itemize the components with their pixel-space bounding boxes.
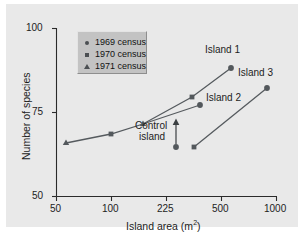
annotation-control-island-line2: island bbox=[139, 131, 165, 142]
x-tick-label-100: 100 bbox=[102, 203, 119, 214]
marker-square-island1-b bbox=[109, 132, 114, 137]
y-tick-label-100: 100 bbox=[26, 22, 43, 33]
chart-legend: 1969 census 1970 census 1971 census bbox=[77, 31, 147, 74]
marker-circle-island3-end bbox=[264, 85, 270, 91]
y-tick-label-75: 75 bbox=[32, 106, 43, 117]
legend-item-1970: 1970 census bbox=[83, 48, 146, 60]
marker-circle-control-island bbox=[173, 144, 179, 150]
x-tick-label-500: 500 bbox=[212, 203, 229, 214]
x-axis-title-tail: ) bbox=[197, 220, 201, 232]
x-axis-title-base: Island area (m bbox=[126, 220, 193, 232]
marker-square-island1-d bbox=[190, 95, 195, 100]
legend-label-1970: 1970 census bbox=[95, 49, 146, 59]
control-island-arrow-head bbox=[173, 119, 180, 126]
x-tick-label-225: 225 bbox=[157, 203, 174, 214]
marker-square-island3-start bbox=[192, 145, 197, 150]
triangle-marker-icon bbox=[83, 62, 92, 71]
annotation-island-2: Island 2 bbox=[206, 92, 241, 103]
legend-label-1969: 1969 census bbox=[95, 37, 146, 47]
x-axis-title: Island area (m2) bbox=[126, 219, 201, 232]
marker-circle-island1-end bbox=[228, 65, 234, 71]
annotation-control-island-line1: Control bbox=[135, 120, 167, 131]
legend-label-1971: 1971 census bbox=[95, 61, 146, 71]
annotation-island-3: Island 3 bbox=[238, 67, 273, 78]
marker-circle-island2-end bbox=[197, 102, 203, 108]
annotation-island-1: Island 1 bbox=[205, 44, 240, 55]
legend-item-1969: 1969 census bbox=[83, 36, 146, 48]
legend-item-1971: 1971 census bbox=[83, 60, 146, 72]
square-marker-icon bbox=[83, 50, 92, 59]
circle-marker-icon bbox=[83, 38, 92, 47]
y-axis-title: Number of species bbox=[20, 72, 32, 160]
y-tick-label-50: 50 bbox=[32, 190, 43, 201]
x-tick-label-50: 50 bbox=[50, 203, 61, 214]
figure: 100 75 50 50 100 225 500 1000 Number of … bbox=[0, 0, 306, 239]
x-tick-label-1000: 1000 bbox=[264, 203, 286, 214]
